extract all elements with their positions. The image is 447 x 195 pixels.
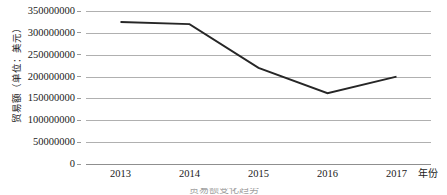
figure-caption: 贸易额变化趋势 xyxy=(0,188,447,195)
gridline xyxy=(86,164,431,165)
series-line xyxy=(86,11,431,164)
y-axis-tick-label: 0 xyxy=(70,159,81,169)
x-axis-tick-label: 2014 xyxy=(179,167,200,181)
y-axis-tick-mark xyxy=(77,98,81,99)
y-axis-tick-label: 350000000 xyxy=(28,6,81,16)
y-axis-tick-mark xyxy=(77,54,81,55)
x-axis-title: 年份 xyxy=(418,167,438,181)
x-axis-tick-label: 2015 xyxy=(248,167,269,181)
y-axis-tick-label: 50000000 xyxy=(33,137,81,147)
y-axis-tick-mark xyxy=(77,32,81,33)
x-axis-tick-label: 2017 xyxy=(386,167,407,181)
y-axis-tick-label: 200000000 xyxy=(28,72,81,82)
plot-area xyxy=(86,11,431,164)
y-axis-tick-labels: 0500000001000000001500000002000000002500… xyxy=(0,0,84,195)
y-axis-tick-mark xyxy=(77,11,81,12)
figure-caption-text: 贸易额变化趋势 xyxy=(0,188,447,195)
y-axis-tick-mark xyxy=(77,120,81,121)
y-axis-tick-label: 150000000 xyxy=(28,93,81,103)
x-axis-tick-label: 2016 xyxy=(317,167,338,181)
y-axis-tick-mark xyxy=(77,164,81,165)
line-chart: 贸易额（单位：美元） 05000000010000000015000000020… xyxy=(0,0,447,195)
y-axis-tick-mark xyxy=(77,76,81,77)
x-axis-tick-label: 2013 xyxy=(110,167,131,181)
y-axis-tick-label: 250000000 xyxy=(28,50,81,60)
x-axis-tick-labels: 20132014201520162017 xyxy=(86,167,431,183)
y-axis-tick-label: 100000000 xyxy=(28,115,81,125)
y-axis-tick-label: 300000000 xyxy=(28,28,81,38)
y-axis-tick-mark xyxy=(77,142,81,143)
